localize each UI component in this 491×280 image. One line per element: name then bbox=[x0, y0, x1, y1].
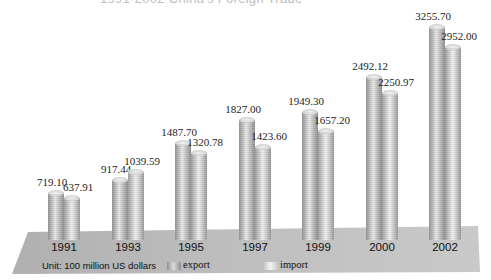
unit-note: Unit: 100 million US dollars bbox=[42, 260, 156, 271]
import-bar-1997 bbox=[255, 147, 271, 240]
x-tick-label: 1999 bbox=[305, 241, 331, 253]
import-value-label: 1039.59 bbox=[124, 155, 160, 167]
import-value-label: 1657.20 bbox=[314, 114, 350, 126]
import-value-label: 2250.97 bbox=[378, 76, 414, 88]
export-value-label: 3255.70 bbox=[415, 10, 451, 22]
x-tick-label: 2002 bbox=[432, 241, 458, 253]
import-value-label: 1423.60 bbox=[251, 130, 287, 142]
export-bar-1999 bbox=[302, 112, 318, 240]
export-bar-2002 bbox=[429, 27, 445, 240]
import-bar-1995 bbox=[191, 153, 207, 240]
import-bar-2002 bbox=[445, 47, 461, 240]
import-value-label: 2952.00 bbox=[441, 30, 477, 42]
x-tick-label: 2000 bbox=[369, 241, 395, 253]
x-tick-label: 1997 bbox=[242, 241, 268, 253]
export-value-label: 1949.30 bbox=[288, 95, 324, 107]
import-bar-1991 bbox=[64, 198, 80, 240]
export-bar-1991 bbox=[48, 193, 64, 240]
import-bar-2000 bbox=[382, 93, 398, 240]
export-swatch bbox=[167, 262, 181, 270]
export-value-label: 1827.00 bbox=[225, 103, 261, 115]
export-bar-1995 bbox=[175, 143, 191, 240]
import-bar-1993 bbox=[128, 172, 144, 240]
export-bar-1993 bbox=[112, 180, 128, 240]
import-legend-label: import bbox=[280, 259, 308, 270]
import-swatch bbox=[264, 262, 278, 270]
export-value-label: 2492.12 bbox=[352, 60, 388, 72]
x-tick-label: 1995 bbox=[178, 241, 204, 253]
export-bar-2000 bbox=[366, 77, 382, 240]
x-tick-label: 1993 bbox=[115, 241, 141, 253]
import-value-label: 637.91 bbox=[63, 181, 93, 193]
import-bar-1999 bbox=[318, 131, 334, 240]
import-value-label: 1320.78 bbox=[187, 136, 223, 148]
export-legend-label: export bbox=[183, 259, 210, 270]
x-tick-label: 1991 bbox=[51, 241, 77, 253]
